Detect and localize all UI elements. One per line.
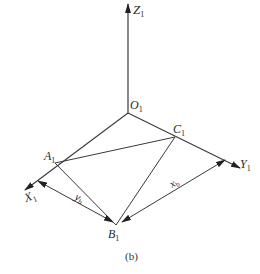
label-b1: B1 (108, 227, 119, 243)
label-xb: xb (166, 175, 182, 192)
label-z1: Z1 (133, 2, 144, 19)
diagram-canvas: Z1 O1 C1 A1 B1 X1 Y1 yb xb (b) (0, 0, 260, 274)
edge-a1-c1 (55, 137, 175, 163)
label-a1: A1 (43, 149, 55, 165)
edge-a1-b1 (55, 163, 116, 225)
y-axis (128, 113, 240, 168)
axonometric-diagram: Z1 O1 C1 A1 B1 X1 Y1 yb xb (b) (0, 0, 260, 274)
edge-c1-b1 (116, 137, 175, 225)
x-axis (25, 113, 128, 190)
label-x1: X1 (21, 188, 38, 207)
label-c1: C1 (173, 122, 185, 138)
figure-caption: (b) (125, 250, 138, 263)
label-y1: Y1 (240, 157, 251, 173)
dimension-xb (122, 160, 225, 222)
label-o1: O1 (130, 98, 143, 114)
